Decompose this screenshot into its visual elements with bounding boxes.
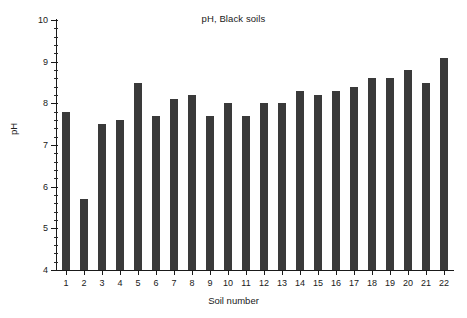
x-tick-label: 10	[223, 278, 233, 288]
bar-soil-12	[260, 103, 268, 270]
y-minor-tick	[54, 120, 58, 121]
x-tick-mark	[192, 270, 193, 275]
x-tick-mark	[102, 270, 103, 275]
x-tick-label: 15	[313, 278, 323, 288]
bar-soil-13	[278, 103, 286, 270]
y-tick-mark	[51, 270, 58, 271]
y-tick-label: 9	[43, 57, 48, 67]
y-minor-tick	[54, 70, 58, 71]
x-tick-label: 4	[117, 278, 122, 288]
y-tick-mark	[51, 103, 58, 104]
y-minor-tick	[54, 112, 58, 113]
x-tick-label: 21	[421, 278, 431, 288]
y-axis-label: pH	[8, 123, 19, 135]
x-tick-mark	[426, 270, 427, 275]
y-minor-tick	[54, 153, 58, 154]
bar-soil-19	[386, 78, 394, 270]
y-tick-label: 4	[43, 265, 48, 275]
y-tick-label: 5	[43, 223, 48, 233]
bar-soil-5	[134, 83, 142, 271]
x-tick-mark	[264, 270, 265, 275]
bar-soil-21	[422, 83, 430, 271]
x-tick-label: 19	[385, 278, 395, 288]
y-minor-tick	[54, 170, 58, 171]
x-tick-mark	[372, 270, 373, 275]
x-tick-label: 1	[63, 278, 68, 288]
x-tick-label: 17	[349, 278, 359, 288]
y-tick-mark	[51, 228, 58, 229]
bar-soil-6	[152, 116, 160, 270]
y-minor-tick	[54, 178, 58, 179]
x-tick-label: 11	[241, 278, 250, 288]
bar-soil-11	[242, 116, 250, 270]
x-tick-label: 3	[99, 278, 104, 288]
x-tick-label: 20	[403, 278, 413, 288]
x-tick-mark	[282, 270, 283, 275]
bar-soil-20	[404, 70, 412, 270]
y-tick-label: 8	[43, 98, 48, 108]
bar-soil-17	[350, 87, 358, 270]
x-tick-mark	[156, 270, 157, 275]
y-minor-tick	[54, 45, 58, 46]
x-tick-label: 6	[153, 278, 158, 288]
y-minor-tick	[54, 245, 58, 246]
x-tick-mark	[174, 270, 175, 275]
x-tick-label: 13	[277, 278, 287, 288]
x-axis-line	[56, 270, 454, 271]
x-tick-mark	[120, 270, 121, 275]
x-tick-label: 22	[439, 278, 449, 288]
y-minor-tick	[54, 87, 58, 88]
x-tick-mark	[210, 270, 211, 275]
x-tick-mark	[390, 270, 391, 275]
bar-soil-15	[314, 95, 322, 270]
y-minor-tick	[54, 203, 58, 204]
x-tick-mark	[66, 270, 67, 275]
bar-soil-10	[224, 103, 232, 270]
bar-soil-7	[170, 99, 178, 270]
y-minor-tick	[54, 220, 58, 221]
x-axis-label: Soil number	[0, 295, 467, 306]
x-tick-label: 9	[207, 278, 212, 288]
y-minor-tick	[54, 95, 58, 96]
y-tick-mark	[51, 187, 58, 188]
y-tick-label: 7	[43, 140, 48, 150]
x-tick-mark	[300, 270, 301, 275]
bar-soil-16	[332, 91, 340, 270]
bar-soil-8	[188, 95, 196, 270]
x-tick-mark	[138, 270, 139, 275]
x-tick-mark	[408, 270, 409, 275]
x-tick-label: 12	[259, 278, 269, 288]
y-tick-label: 10	[38, 15, 48, 25]
y-minor-tick	[54, 137, 58, 138]
x-tick-label: 8	[189, 278, 194, 288]
bar-soil-2	[80, 199, 88, 270]
bar-soil-1	[62, 112, 70, 270]
x-tick-label: 16	[331, 278, 341, 288]
x-tick-mark	[84, 270, 85, 275]
bar-soil-22	[440, 58, 448, 271]
x-tick-mark	[354, 270, 355, 275]
y-minor-tick	[54, 262, 58, 263]
x-tick-mark	[228, 270, 229, 275]
bar-soil-9	[206, 116, 214, 270]
y-minor-tick	[54, 195, 58, 196]
y-minor-tick	[54, 162, 58, 163]
y-tick-mark	[51, 145, 58, 146]
y-minor-tick	[54, 237, 58, 238]
y-minor-tick	[54, 28, 58, 29]
x-tick-label: 18	[367, 278, 377, 288]
x-tick-label: 2	[81, 278, 86, 288]
x-tick-mark	[336, 270, 337, 275]
y-minor-tick	[54, 212, 58, 213]
y-tick-mark	[51, 62, 58, 63]
y-tick-label: 6	[43, 182, 48, 192]
bar-soil-3	[98, 124, 106, 270]
plot-area: 4567891012345678910111213141516171819202…	[57, 20, 453, 270]
x-tick-label: 5	[135, 278, 140, 288]
y-minor-tick	[54, 37, 58, 38]
x-tick-label: 7	[171, 278, 176, 288]
bar-soil-4	[116, 120, 124, 270]
y-tick-mark	[51, 20, 58, 21]
x-tick-mark	[318, 270, 319, 275]
y-minor-tick	[54, 253, 58, 254]
